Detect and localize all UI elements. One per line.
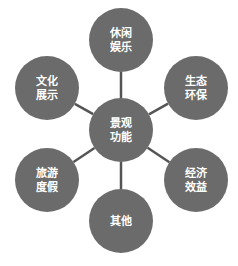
bottom-right-circle [164,148,228,212]
bottom-right-label-line-1: 经济 [185,166,208,180]
top-label-line-2: 娱乐 [110,40,132,54]
connector-top-right [149,104,168,115]
top-left-circle [15,56,79,120]
node-top-right: 生态环保 [164,56,228,120]
connector-bottom-right [148,148,170,162]
node-top-left: 文化展示 [15,56,79,120]
node-bottom: 其他 [89,189,153,253]
center-node: 景观功能 [89,98,153,162]
connector-top-left [75,104,93,114]
bottom-left-label-line-2: 度假 [36,180,59,194]
top-right-circle [164,56,228,120]
landscape-function-diagram: 休闲娱乐生态环保经济效益其他旅游度假文化展示景观功能 [0,0,238,266]
center-circle [89,98,153,162]
top-circle [89,8,153,72]
top-label-line-1: 休闲 [109,26,132,40]
node-top: 休闲娱乐 [89,8,153,72]
node-bottom-right: 经济效益 [164,148,228,212]
nodes: 休闲娱乐生态环保经济效益其他旅游度假文化展示景观功能 [15,8,228,253]
bottom-label-line-1: 其他 [110,214,132,228]
top-left-label-line-1: 文化 [36,74,58,88]
center-label-line-2: 功能 [110,130,132,144]
bottom-left-label-line-1: 旅游 [36,166,58,180]
connector-bottom-left [74,148,95,162]
top-right-label-line-2: 环保 [185,88,208,102]
bottom-left-circle [15,148,79,212]
top-right-label-line-1: 生态 [185,74,207,88]
center-label-line-1: 景观 [109,117,132,130]
node-bottom-left: 旅游度假 [15,148,79,212]
bottom-right-label-line-2: 效益 [185,180,207,194]
top-left-label-line-2: 展示 [35,89,58,102]
